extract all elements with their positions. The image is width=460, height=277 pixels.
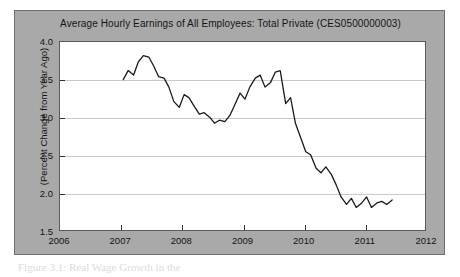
x-tick-label: 2012 bbox=[403, 235, 449, 246]
x-tick-label: 2011 bbox=[342, 235, 388, 246]
series-line-chart bbox=[60, 42, 425, 230]
y-tick-label: 3.0 bbox=[13, 112, 53, 123]
x-tick-label: 2008 bbox=[158, 235, 204, 246]
chart-title: Average Hourly Earnings of All Employees… bbox=[15, 18, 446, 29]
figure-container: Average Hourly Earnings of All Employees… bbox=[0, 0, 460, 277]
x-tick-label: 2007 bbox=[97, 235, 143, 246]
y-tick-label: 4.0 bbox=[13, 36, 53, 47]
series-polyline bbox=[123, 56, 392, 208]
y-tick-label: 3.5 bbox=[13, 74, 53, 85]
y-tick-label: 2.5 bbox=[13, 150, 53, 161]
x-tick-label: 2009 bbox=[220, 235, 266, 246]
x-tick-label: 2006 bbox=[36, 235, 82, 246]
figure-caption: Figure 3.1: Real Wage Growth in the bbox=[18, 261, 448, 273]
chart-panel: Average Hourly Earnings of All Employees… bbox=[14, 10, 445, 255]
x-tick-label: 2010 bbox=[281, 235, 327, 246]
y-tick-label: 2.0 bbox=[13, 188, 53, 199]
plot-area bbox=[59, 41, 426, 231]
